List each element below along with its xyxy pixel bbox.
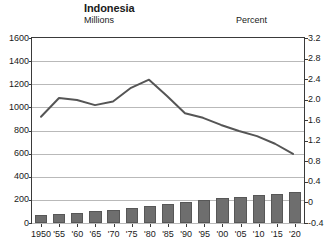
right-axis-tick bbox=[305, 161, 308, 162]
right-axis-tick bbox=[305, 38, 308, 39]
right-axis-tick bbox=[305, 202, 308, 203]
right-axis-tick bbox=[305, 100, 308, 101]
left-axis-tick-label: 1400 bbox=[1, 57, 29, 66]
x-axis-tick bbox=[241, 224, 242, 227]
plot-area bbox=[31, 37, 305, 224]
right-axis-tick bbox=[305, 59, 308, 60]
right-axis-tick bbox=[305, 79, 308, 80]
x-axis-tick bbox=[168, 224, 169, 227]
left-axis-tick-label: 1000 bbox=[1, 103, 29, 112]
x-axis-tick-label: '90 bbox=[180, 229, 192, 239]
right-axis-tick-label: -0.4 bbox=[308, 219, 325, 228]
x-axis-tick-label: '55 bbox=[53, 229, 65, 239]
growth-rate-polyline bbox=[41, 80, 293, 154]
x-axis-tick-label: '20 bbox=[289, 229, 301, 239]
x-axis-tick-label: '10 bbox=[253, 229, 265, 239]
x-axis-tick-label: '00 bbox=[217, 229, 229, 239]
right-axis-unit-label: Percent bbox=[236, 15, 267, 25]
x-axis-tick bbox=[132, 224, 133, 227]
chart-figure: Indonesia Millions Percent 0200400600800… bbox=[0, 0, 325, 250]
x-axis-tick-label: '70 bbox=[108, 229, 120, 239]
right-axis-tick-label: 0.8 bbox=[308, 157, 325, 166]
left-axis-tick-label: 1200 bbox=[1, 80, 29, 89]
right-axis-tick bbox=[305, 223, 308, 224]
chart-title: Indonesia bbox=[84, 2, 134, 14]
x-axis-tick-label: 1950 bbox=[31, 229, 51, 239]
x-axis-tick-label: '75 bbox=[126, 229, 138, 239]
right-axis-tick bbox=[305, 182, 308, 183]
right-axis-tick-label: 2.4 bbox=[308, 75, 325, 84]
right-axis-tick bbox=[305, 120, 308, 121]
right-axis: -0.400.40.81.21.62.02.42.83.2 bbox=[308, 37, 325, 224]
x-axis-tick bbox=[95, 224, 96, 227]
x-axis-tick bbox=[259, 224, 260, 227]
x-axis-tick-label: '60 bbox=[71, 229, 83, 239]
right-axis-tick-label: 2.0 bbox=[308, 95, 325, 104]
left-axis-tick-label: 1600 bbox=[1, 34, 29, 43]
left-axis-tick-label: 800 bbox=[1, 126, 29, 135]
x-axis-tick bbox=[59, 224, 60, 227]
x-axis: 1950'55'60'65'70'75'80'85'90'95'00'05'10… bbox=[31, 224, 305, 248]
x-axis-tick-label: '65 bbox=[90, 229, 102, 239]
x-axis-tick bbox=[114, 224, 115, 227]
left-axis-tick-label: 0 bbox=[1, 219, 29, 228]
left-axis-unit-label: Millions bbox=[84, 15, 114, 25]
x-axis-tick-label: '15 bbox=[271, 229, 283, 239]
left-axis-tick-label: 400 bbox=[1, 172, 29, 181]
x-axis-tick bbox=[295, 224, 296, 227]
right-axis-tick-label: 0 bbox=[308, 198, 325, 207]
left-axis-tick-label: 600 bbox=[1, 149, 29, 158]
left-axis-tick-label: 200 bbox=[1, 195, 29, 204]
right-axis-tick-label: 2.8 bbox=[308, 54, 325, 63]
right-axis-tick-label: 0.4 bbox=[308, 177, 325, 186]
line-series-growth-rate bbox=[32, 38, 304, 223]
right-axis-tick-label: 1.2 bbox=[308, 136, 325, 145]
x-axis-tick bbox=[204, 224, 205, 227]
x-axis-tick-label: '05 bbox=[235, 229, 247, 239]
x-axis-tick bbox=[277, 224, 278, 227]
left-axis: 02004006008001000120014001600 bbox=[0, 37, 29, 224]
x-axis-tick bbox=[150, 224, 151, 227]
x-axis-tick bbox=[222, 224, 223, 227]
x-axis-tick bbox=[41, 224, 42, 227]
x-axis-tick-label: '95 bbox=[198, 229, 210, 239]
right-axis-tick bbox=[305, 141, 308, 142]
right-axis-tick-label: 3.2 bbox=[308, 34, 325, 43]
x-axis-tick-label: '85 bbox=[162, 229, 174, 239]
x-axis-tick bbox=[186, 224, 187, 227]
right-axis-tick-label: 1.6 bbox=[308, 116, 325, 125]
x-axis-tick-label: '80 bbox=[144, 229, 156, 239]
x-axis-tick bbox=[77, 224, 78, 227]
